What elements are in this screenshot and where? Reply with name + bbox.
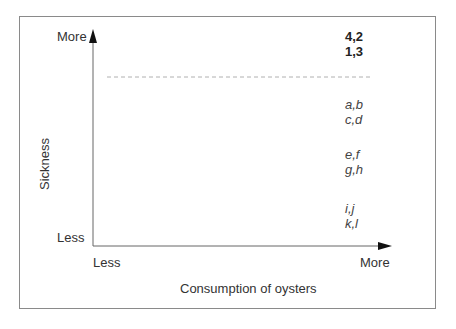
group-line: i,j: [345, 201, 358, 216]
group-line: 1,3: [345, 44, 363, 59]
group-line: g,h: [345, 162, 363, 177]
y-axis-bottom-label: Less: [57, 230, 84, 245]
y-axis-arrow-icon: [89, 29, 97, 43]
group-i-l: i,j k,l: [345, 201, 358, 231]
group-line: k,l: [345, 216, 358, 231]
group-line: a,b: [345, 97, 363, 112]
group-line: e,f: [345, 147, 363, 162]
group-numbers: 4,2 1,3: [345, 29, 363, 59]
group-line: 4,2: [345, 29, 363, 44]
y-axis-title: Sickness: [37, 138, 52, 190]
x-axis-title: Consumption of oysters: [180, 281, 317, 296]
axes-graphic: [0, 0, 456, 329]
group-e-h: e,f g,h: [345, 147, 363, 177]
x-axis-right-label: More: [360, 255, 390, 270]
x-axis-left-label: Less: [93, 255, 120, 270]
x-axis-arrow-icon: [378, 242, 392, 250]
group-a-d: a,b c,d: [345, 97, 363, 127]
group-line: c,d: [345, 112, 363, 127]
y-axis-top-label: More: [57, 29, 87, 44]
